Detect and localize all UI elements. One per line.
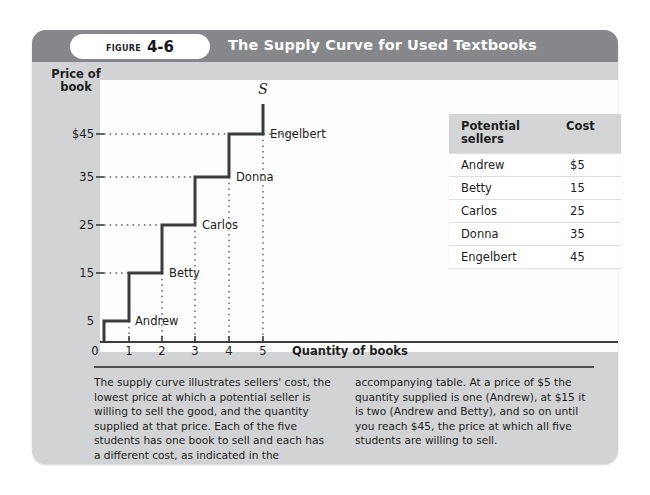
figure-title-bar: FIGURE 4-6 The Supply Curve for Used Tex… <box>32 30 618 62</box>
cell-seller-carlos: Carlos <box>449 200 558 223</box>
vertical-guide-lines <box>129 134 263 342</box>
horizontal-guide-lines <box>104 134 296 273</box>
table-row: Betty 15 <box>449 177 621 200</box>
annotation-andrew: Andrew <box>135 314 178 328</box>
figure-label-word: FIGURE <box>106 40 141 54</box>
x-tick-label-5: 5 <box>259 344 266 358</box>
y-tick-label-15: 15 <box>79 266 94 280</box>
y-tick-label-35: 35 <box>79 170 94 184</box>
cell-cost-donna: 35 <box>558 223 621 246</box>
caption-columns: The supply curve illustrates sellers' co… <box>94 375 594 463</box>
cell-cost-engelbert: 45 <box>558 246 621 269</box>
column-header-sellers-line2: sellers <box>461 132 504 146</box>
supply-curve-label: S <box>258 81 268 97</box>
seller-annotations: Andrew Betty Carlos Donna Engelbert <box>135 127 326 328</box>
caption-column-right: accompanying table. At a price of $5 the… <box>355 375 594 463</box>
cell-seller-andrew: Andrew <box>449 154 558 177</box>
column-header-sellers: Potential sellers <box>449 114 558 154</box>
column-header-cost: Cost <box>558 114 621 154</box>
y-tick-label-25: 25 <box>79 218 94 232</box>
x-tick-label-4: 4 <box>225 344 232 358</box>
caption-column-left: The supply curve illustrates sellers' co… <box>94 375 333 463</box>
table-row: Carlos 25 <box>449 200 621 223</box>
x-axis-tick-labels: 0 1 2 3 4 5 <box>91 344 266 358</box>
column-header-sellers-line1: Potential <box>461 119 520 133</box>
cell-seller-betty: Betty <box>449 177 558 200</box>
table-header: Potential sellers Cost <box>449 114 621 154</box>
y-axis-ticks: $45 35 25 15 5 <box>72 127 104 328</box>
x-tick-label-2: 2 <box>158 344 165 358</box>
page-title: The Supply Curve for Used Textbooks <box>228 37 537 53</box>
potential-sellers-table: Potential sellers Cost Andrew $5 Betty 1… <box>449 114 621 268</box>
y-tick-label-45: $45 <box>72 127 94 141</box>
annotation-carlos: Carlos <box>202 218 238 232</box>
figure-caption: The supply curve illustrates sellers' co… <box>94 366 594 463</box>
y-tick-label-5: 5 <box>87 314 94 328</box>
table-header-row: Potential sellers Cost <box>449 114 621 154</box>
chart-panel: Price of book Quantity of books $45 35 2… <box>32 62 618 367</box>
caption-divider <box>94 366 594 368</box>
table-row: Andrew $5 <box>449 154 621 177</box>
cell-seller-donna: Donna <box>449 223 558 246</box>
table-row: Donna 35 <box>449 223 621 246</box>
cell-cost-andrew: $5 <box>558 154 621 177</box>
x-tick-label-1: 1 <box>125 344 132 358</box>
figure-number-badge: FIGURE 4-6 <box>70 34 210 59</box>
figure-container: FIGURE 4-6 The Supply Curve for Used Tex… <box>32 30 618 464</box>
x-tick-label-0: 0 <box>91 344 98 358</box>
figure-number: 4-6 <box>147 38 174 56</box>
annotation-engelbert: Engelbert <box>270 127 326 141</box>
cell-cost-betty: 15 <box>558 177 621 200</box>
supply-curve-line <box>104 104 263 342</box>
cell-seller-engelbert: Engelbert <box>449 246 558 269</box>
annotation-donna: Donna <box>236 170 274 184</box>
table-row: Engelbert 45 <box>449 246 621 269</box>
cell-cost-carlos: 25 <box>558 200 621 223</box>
x-tick-label-3: 3 <box>191 344 198 358</box>
annotation-betty: Betty <box>169 266 200 280</box>
table-body: Andrew $5 Betty 15 Carlos 25 Donna 35 En… <box>449 154 621 269</box>
